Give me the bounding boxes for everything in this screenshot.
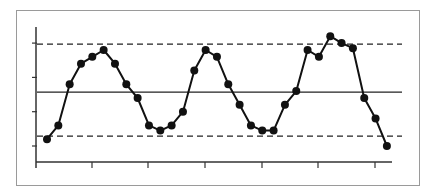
data-point-marker — [224, 80, 232, 88]
data-point-marker — [156, 127, 164, 135]
data-point-marker — [281, 101, 289, 109]
data-point-marker — [383, 142, 391, 150]
data-point-marker — [213, 53, 221, 61]
control-chart — [0, 0, 437, 193]
data-point-marker — [111, 60, 119, 68]
data-point-marker — [168, 121, 176, 129]
data-point-marker — [247, 121, 255, 129]
data-point-marker — [190, 67, 198, 75]
data-point-marker — [236, 101, 244, 109]
data-point-marker — [145, 121, 153, 129]
data-point-marker — [179, 108, 187, 116]
chart-frame — [17, 11, 420, 186]
data-point-marker — [270, 127, 278, 135]
data-point-marker — [66, 80, 74, 88]
data-point-marker — [202, 46, 210, 54]
data-point-marker — [134, 94, 142, 102]
data-point-marker — [122, 80, 130, 88]
data-point-marker — [338, 39, 346, 47]
data-point-marker — [304, 46, 312, 54]
data-point-marker — [326, 32, 334, 40]
data-point-marker — [372, 115, 380, 123]
data-point-marker — [349, 44, 357, 52]
data-point-marker — [100, 46, 108, 54]
data-point-marker — [54, 121, 62, 129]
data-point-marker — [360, 94, 368, 102]
data-point-marker — [88, 53, 96, 61]
data-point-marker — [77, 60, 85, 68]
data-point-marker — [43, 135, 51, 143]
chart-canvas — [0, 0, 437, 193]
data-point-marker — [258, 127, 266, 135]
data-point-marker — [292, 87, 300, 95]
data-point-marker — [315, 53, 323, 61]
